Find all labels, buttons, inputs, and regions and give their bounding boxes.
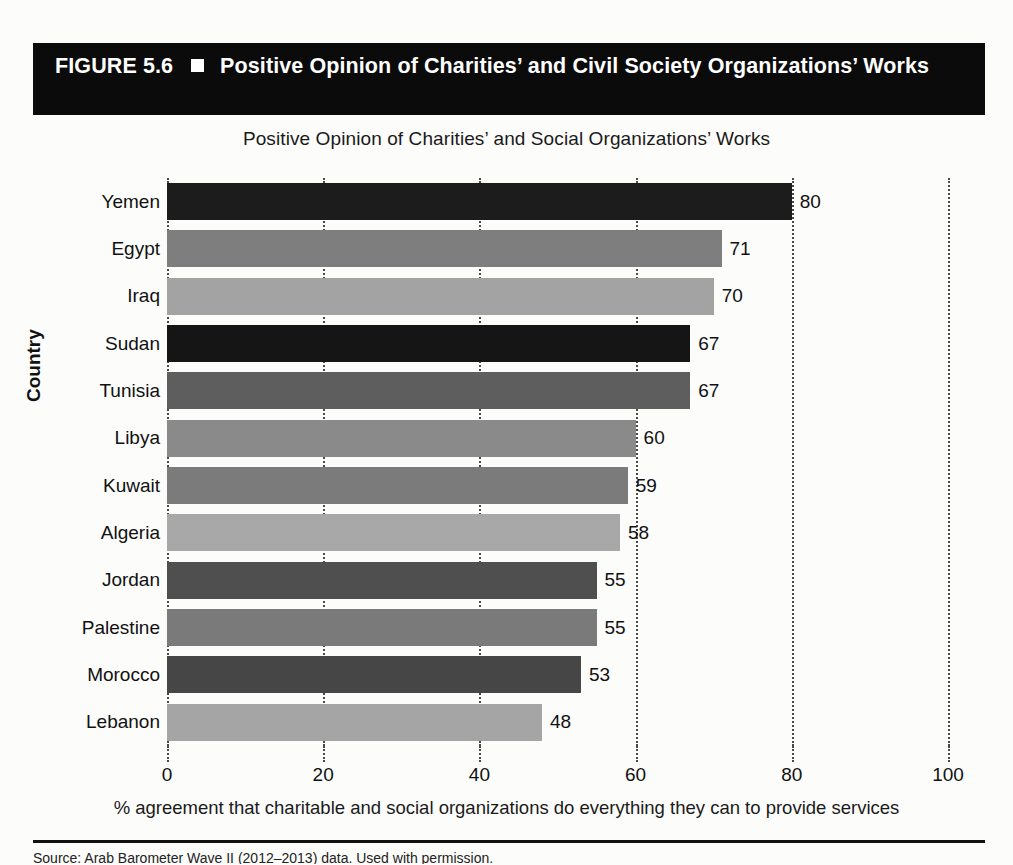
source-note: Source: Arab Barometer Wave II (2012–201… — [33, 850, 733, 864]
bar-value-label: 80 — [800, 191, 821, 213]
bar-value-label: 53 — [589, 664, 610, 686]
bar-value-label: 60 — [644, 427, 665, 449]
bar-row: 48 — [167, 699, 948, 746]
bar-row: 59 — [167, 462, 948, 509]
x-tick-mark-20 — [323, 746, 325, 762]
figure-banner: FIGURE 5.6Positive Opinion of Charities’… — [33, 43, 985, 115]
y-tick-morocco: Morocco — [20, 664, 160, 686]
y-tick-palestine: Palestine — [20, 617, 160, 639]
bar-value-label: 67 — [698, 333, 719, 355]
x-tick-mark-40 — [479, 746, 481, 762]
bar-row: 53 — [167, 651, 948, 698]
bar-value-label: 48 — [550, 711, 571, 733]
y-tick-jordan: Jordan — [20, 569, 160, 591]
footer-divider — [33, 840, 985, 843]
chart-title: Positive Opinion of Charities’ and Socia… — [0, 128, 1013, 150]
y-tick-egypt: Egypt — [20, 238, 160, 260]
x-axis: 020406080100 — [167, 746, 948, 786]
bar-row: 80 — [167, 178, 948, 225]
bar-jordan[interactable] — [167, 562, 597, 599]
bar-kuwait[interactable] — [167, 467, 628, 504]
x-tick-mark-80 — [792, 746, 794, 762]
bar-egypt[interactable] — [167, 230, 722, 267]
bar-row: 55 — [167, 604, 948, 651]
bar-morocco[interactable] — [167, 656, 581, 693]
y-tick-iraq: Iraq — [20, 285, 160, 307]
y-tick-sudan: Sudan — [20, 333, 160, 355]
figure-banner-text: FIGURE 5.6Positive Opinion of Charities’… — [55, 52, 967, 81]
x-tick-mark-60 — [636, 746, 638, 762]
bar-value-label: 70 — [722, 285, 743, 307]
bar-value-label: 58 — [628, 522, 649, 544]
y-tick-yemen: Yemen — [20, 191, 160, 213]
y-tick-kuwait: Kuwait — [20, 475, 160, 497]
bar-libya[interactable] — [167, 420, 636, 457]
x-tick-label-0: 0 — [162, 764, 173, 786]
y-tick-tunisia: Tunisia — [20, 380, 160, 402]
bar-sudan[interactable] — [167, 325, 690, 362]
x-tick-label-20: 20 — [313, 764, 334, 786]
bar-row: 58 — [167, 509, 948, 556]
figure-number-label: FIGURE 5.6 — [55, 54, 173, 78]
x-axis-caption: % agreement that charitable and social o… — [0, 797, 1013, 819]
bar-row: 55 — [167, 557, 948, 604]
y-axis-tick-labels: YemenEgyptIraqSudanTunisiaLibyaKuwaitAlg… — [12, 178, 160, 746]
bar-value-label: 71 — [730, 238, 751, 260]
x-tick-label-80: 80 — [781, 764, 802, 786]
gridline-100 — [948, 178, 950, 746]
bar-iraq[interactable] — [167, 278, 714, 315]
y-tick-lebanon: Lebanon — [20, 711, 160, 733]
filled-square-icon — [191, 59, 204, 72]
bar-row: 67 — [167, 320, 948, 367]
figure-page: FIGURE 5.6Positive Opinion of Charities’… — [0, 0, 1013, 865]
bar-yemen[interactable] — [167, 183, 792, 220]
bar-row: 70 — [167, 273, 948, 320]
x-tick-mark-100 — [948, 746, 950, 762]
bar-row: 60 — [167, 415, 948, 462]
bar-value-label: 59 — [636, 475, 657, 497]
y-tick-algeria: Algeria — [20, 522, 160, 544]
bar-algeria[interactable] — [167, 514, 620, 551]
figure-title: Positive Opinion of Charities’ and Civil… — [220, 54, 929, 78]
bar-tunisia[interactable] — [167, 372, 690, 409]
bar-lebanon[interactable] — [167, 704, 542, 741]
bar-row: 71 — [167, 225, 948, 272]
x-tick-label-100: 100 — [932, 764, 964, 786]
x-tick-label-60: 60 — [625, 764, 646, 786]
plot-area: 807170676760595855555348 — [167, 178, 948, 746]
bar-value-label: 55 — [605, 569, 626, 591]
x-tick-label-40: 40 — [469, 764, 490, 786]
x-tick-mark-0 — [167, 746, 169, 762]
bar-value-label: 55 — [605, 617, 626, 639]
bar-row: 67 — [167, 367, 948, 414]
bar-palestine[interactable] — [167, 609, 597, 646]
y-tick-libya: Libya — [20, 427, 160, 449]
bar-value-label: 67 — [698, 380, 719, 402]
